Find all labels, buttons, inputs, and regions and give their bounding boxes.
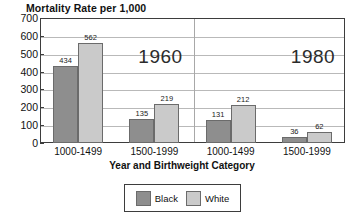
y-axis-tick-label: 300	[2, 83, 38, 95]
y-axis-tick-label: 200	[2, 101, 38, 113]
group-divider	[194, 19, 195, 142]
gridline	[41, 90, 344, 91]
y-axis: 7006005004003002001000	[0, 18, 38, 143]
mortality-rate-bar-chart: Mortality Rate per 1,000 700600500400300…	[0, 0, 364, 224]
legend-swatch-black	[136, 191, 151, 206]
bar-value-label: 135	[136, 109, 149, 118]
y-axis-tick-mark	[40, 72, 44, 73]
bar-value-label: 434	[59, 56, 72, 65]
legend-entry-black: Black	[136, 191, 178, 206]
y-axis-tick-label: 700	[2, 12, 38, 24]
bar-value-label: 219	[161, 94, 174, 103]
year-annotation-1980: 1980	[291, 46, 335, 68]
bar-value-label: 62	[315, 122, 323, 131]
x-axis-tick-label: 1500-1999	[130, 146, 178, 157]
y-axis-tick-label: 100	[2, 119, 38, 131]
gridline	[41, 108, 344, 109]
bar-value-label: 131	[212, 110, 225, 119]
y-axis-tick-mark	[40, 54, 44, 55]
x-axis-tick-label: 1500-1999	[283, 146, 331, 157]
y-axis-tick-mark	[40, 36, 44, 37]
x-axis-tick-label: 1000-1499	[207, 146, 255, 157]
x-axis-tick-label: 1000-1499	[54, 146, 102, 157]
gridline	[41, 126, 344, 127]
y-axis-tick-mark	[40, 107, 44, 108]
y-axis-tick-label: 500	[2, 48, 38, 60]
y-axis-tick-label: 400	[2, 66, 38, 78]
bar-value-label: 562	[84, 33, 97, 42]
y-axis-tick-mark	[40, 89, 44, 90]
y-axis-tick-mark	[40, 18, 44, 19]
y-axis-tick-mark	[40, 143, 44, 144]
legend: BlackWhite	[124, 184, 241, 212]
x-axis-title: Year and Birthweight Category	[0, 160, 364, 171]
legend-label: White	[205, 193, 229, 204]
y-axis-tick-label: 600	[2, 30, 38, 42]
y-axis-tick-label: 0	[2, 137, 38, 149]
legend-swatch-white	[186, 191, 201, 206]
legend-entry-white: White	[186, 191, 229, 206]
bar-value-label: 212	[237, 95, 250, 104]
bar-value-label: 36	[290, 127, 298, 136]
legend-label: Black	[155, 193, 178, 204]
gridline	[41, 73, 344, 74]
year-annotation-1960: 1960	[138, 46, 182, 68]
chart-title: Mortality Rate per 1,000	[26, 2, 146, 14]
y-axis-tick-mark	[40, 125, 44, 126]
